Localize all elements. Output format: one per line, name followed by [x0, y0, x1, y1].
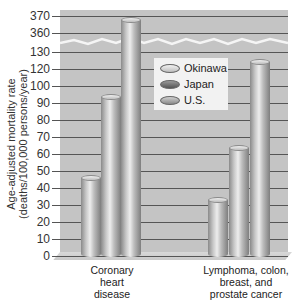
bar-us-cancer: [250, 62, 270, 257]
legend-item-us: U.S.: [160, 93, 205, 107]
bar-okinawa-coronary: [81, 178, 101, 257]
category-line: breast, and: [196, 276, 296, 288]
bar-japan-cancer: [229, 148, 249, 257]
us-swatch-icon: [160, 96, 180, 105]
bar-us-coronary: [121, 20, 141, 257]
legend-label: Okinawa: [184, 62, 227, 74]
category-line: Coronary: [76, 264, 148, 276]
legend-label: Japan: [184, 78, 214, 90]
legend-label: U.S.: [184, 94, 205, 106]
y-tick-label: 370: [20, 10, 50, 22]
category-label-coronary: Coronary heart disease: [76, 264, 148, 300]
bar-okinawa-cancer: [208, 200, 228, 257]
y-axis-label-line2: (deaths/100,000 persons/year): [17, 69, 29, 219]
japan-swatch-icon: [160, 80, 180, 89]
y-tick-label: 10: [20, 233, 50, 245]
y-axis-label-line1: Age-adjusted mortality rate: [5, 69, 17, 219]
axis-break-icon: [60, 34, 288, 48]
gridline: [52, 52, 288, 53]
legend-item-okinawa: Okinawa: [160, 61, 227, 75]
legend-item-japan: Japan: [160, 77, 214, 91]
y-axis-label: Age-adjusted mortality rate (deaths/100,…: [5, 69, 29, 219]
y-tick-label: 130: [20, 46, 50, 58]
category-line: Lymphoma, colon,: [196, 264, 296, 276]
gridline: [52, 16, 288, 17]
okinawa-swatch-icon: [160, 64, 180, 73]
y-tick-label: 0: [20, 250, 50, 262]
category-line: prostate cancer: [196, 288, 296, 300]
y-tick-label: 360: [20, 27, 50, 39]
category-line: heart: [76, 276, 148, 288]
legend: Okinawa Japan U.S.: [154, 58, 228, 110]
category-label-cancer: Lymphoma, colon, breast, and prostate ca…: [196, 264, 296, 300]
category-line: disease: [76, 288, 148, 300]
bar-japan-coronary: [101, 97, 121, 257]
